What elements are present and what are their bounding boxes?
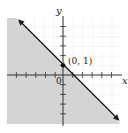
- point-label: (0, 1): [68, 56, 92, 66]
- x-axis-label: x: [122, 75, 128, 86]
- origin-label: 0: [56, 76, 62, 86]
- y-axis-label: y: [55, 5, 62, 16]
- graph: (0, 1) y x 0: [0, 0, 128, 133]
- point-marker: [61, 63, 65, 67]
